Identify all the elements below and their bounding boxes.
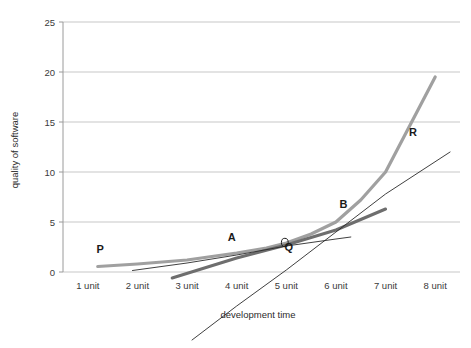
- curve-label-a: A: [228, 231, 236, 243]
- x-tick-label-2: 2 unit: [126, 280, 150, 291]
- y-tick-label-5: 5: [50, 217, 55, 228]
- y-tick-label-25: 25: [44, 17, 55, 28]
- x-tick-label-6: 6 unit: [324, 280, 348, 291]
- x-tick-label-1: 1 unit: [76, 280, 100, 291]
- curve-label-p: P: [97, 243, 104, 255]
- curve-label-q: Q: [285, 241, 294, 253]
- curve-label-b: B: [339, 198, 347, 210]
- chart-container: 0510152025 1 unit2 unit3 unit4 unit5 uni…: [0, 0, 471, 348]
- y-tick-label-0: 0: [50, 267, 55, 278]
- y-tick-label-10: 10: [44, 167, 55, 178]
- x-tick-label-8: 8 unit: [424, 280, 448, 291]
- curve-label-r: R: [409, 126, 417, 138]
- x-axis-title: development time: [221, 309, 296, 320]
- chart-background: [0, 0, 471, 348]
- quality-vs-development-time-chart: 0510152025 1 unit2 unit3 unit4 unit5 uni…: [0, 0, 471, 348]
- y-axis-title: quality of software: [9, 112, 20, 189]
- x-tick-label-3: 3 unit: [175, 280, 199, 291]
- x-tick-label-5: 5 unit: [275, 280, 299, 291]
- y-tick-label-15: 15: [44, 117, 55, 128]
- x-tick-label-4: 4 unit: [225, 280, 249, 291]
- x-tick-label-7: 7 unit: [374, 280, 398, 291]
- y-tick-label-20: 20: [44, 67, 55, 78]
